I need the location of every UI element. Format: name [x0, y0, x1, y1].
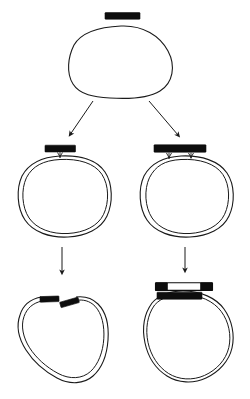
released-fragment-bar [156, 283, 213, 291]
diagram-canvas [0, 0, 250, 399]
staggered-black-segment-left [40, 296, 59, 302]
left-daughter-outline-inner [23, 159, 108, 233]
right-product-outline-inner [147, 295, 230, 379]
black-bar-on-loop [157, 292, 202, 299]
left-product-outline-inner [23, 300, 104, 378]
released-fragment-end-left [156, 283, 168, 291]
left-daughter-connector-leg [58, 152, 63, 157]
diagram-svg [0, 0, 250, 399]
right-daughter-circle-group [140, 145, 233, 237]
parent-circle-outline [69, 26, 173, 99]
left-product-outline-outer [18, 297, 108, 383]
right-product-outline-outer [144, 291, 233, 382]
left-product-circle-group [18, 296, 108, 383]
right-daughter-outline-outer [140, 156, 233, 237]
arrow-parent-to-right-daughter [149, 101, 178, 135]
left-daughter-circle-group [18, 145, 111, 237]
black-bar-double-leg [154, 145, 206, 152]
right-product-circle-group [144, 283, 233, 382]
right-daughter-outline-inner [146, 159, 229, 233]
arrow-parent-to-left-daughter [71, 101, 94, 134]
black-bar-single-leg [45, 145, 76, 152]
black-bar-detached [105, 13, 140, 20]
parent-circle-group [69, 13, 173, 99]
staggered-black-segment-right [60, 297, 80, 308]
released-fragment-end-right [201, 283, 213, 291]
left-daughter-outline-outer [18, 156, 111, 237]
